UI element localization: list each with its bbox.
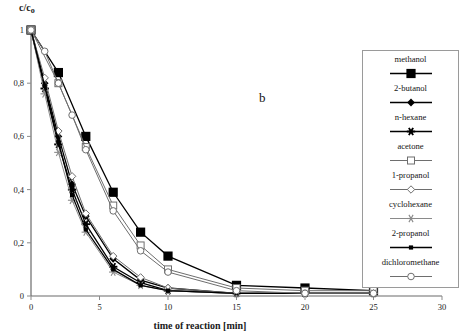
series-2-propanol	[29, 28, 376, 296]
marker-open-circle	[233, 287, 240, 294]
y-tick-label: 0,6	[2, 131, 24, 141]
y-tick-label: 0,4	[2, 185, 24, 195]
marker-filled-square-large	[136, 228, 145, 237]
legend-label: 2-propanol	[363, 228, 458, 239]
legend-marker-sample	[363, 268, 458, 281]
marker-gray-asterisk	[406, 215, 414, 222]
legend-label: methanol	[363, 54, 458, 65]
legend-label: 1-propanol	[363, 170, 458, 181]
legend-entry-n-hexane: n-hexane	[363, 112, 458, 141]
x-tick-label: 0	[20, 302, 42, 312]
legend-entry-dichloromethane: dichloromethane	[363, 257, 458, 286]
x-tick-label: 30	[431, 302, 453, 312]
marker-open-diamond	[407, 186, 414, 193]
data-series-group	[26, 25, 378, 297]
legend-entry-2-propanol: 2-propanol	[363, 228, 458, 257]
legend-entry-1-propanol: 1-propanol	[363, 170, 458, 199]
legend-marker-sample	[363, 210, 458, 223]
marker-open-circle	[137, 247, 144, 254]
marker-open-circle	[41, 48, 48, 55]
y-tick-label: 0,2	[2, 238, 24, 248]
marker-filled-square-large	[163, 252, 172, 261]
legend-marker-sample	[363, 152, 458, 165]
series-acetone	[28, 27, 378, 295]
marker-open-circle	[110, 208, 117, 215]
marker-filled-square-small	[408, 245, 412, 249]
series-dichloromethane	[28, 27, 377, 297]
marker-open-circle	[83, 146, 90, 153]
legend-entry-acetone: acetone	[363, 141, 458, 170]
marker-open-square	[407, 157, 414, 164]
y-tick-label: 0	[2, 291, 24, 301]
series-1-propanol	[27, 26, 377, 297]
marker-filled-square-small	[84, 227, 88, 231]
marker-filled-diamond	[407, 98, 415, 106]
y-tick-label: 0,8	[2, 78, 24, 88]
legend-label: acetone	[363, 141, 458, 152]
y-tick-label: 1	[2, 25, 24, 35]
marker-open-circle	[370, 290, 377, 297]
marker-filled-square-small	[56, 140, 60, 144]
legend-box: methanol2-butanoln-hexaneacetone1-propan…	[362, 50, 459, 288]
marker-filled-square-large	[406, 69, 415, 78]
series-2-butanol	[27, 26, 377, 297]
marker-open-circle	[69, 112, 76, 119]
marker-filled-square-small	[70, 193, 74, 197]
legend-label: 2-butanol	[363, 83, 458, 94]
legend-entry-2-butanol: 2-butanol	[363, 83, 458, 112]
marker-filled-square-large	[109, 188, 118, 197]
series-n-hexane	[27, 26, 378, 297]
legend-marker-sample	[363, 94, 458, 107]
legend-marker-sample	[363, 65, 458, 78]
marker-filled-square-small	[111, 267, 115, 271]
x-tick-label: 15	[226, 302, 248, 312]
x-tick-label: 25	[363, 302, 385, 312]
marker-open-circle	[407, 273, 414, 280]
marker-open-circle	[302, 290, 309, 297]
legend-marker-sample	[363, 239, 458, 252]
legend-entry-cyclohexane: cyclohexane	[363, 199, 458, 228]
marker-filled-square-small	[166, 289, 170, 293]
marker-filled-star	[406, 128, 414, 135]
legend-label: dichloromethane	[363, 257, 458, 268]
legend-label: n-hexane	[363, 112, 458, 123]
marker-filled-square-small	[139, 283, 143, 287]
figure-root: c/co b time of reaction [min] 00,20,40,6…	[0, 0, 469, 336]
marker-open-circle	[55, 80, 62, 87]
marker-open-circle	[165, 269, 172, 276]
legend-entry-methanol: methanol	[363, 54, 458, 83]
series-cyclohexane	[27, 26, 378, 297]
x-tick-label: 20	[294, 302, 316, 312]
legend-marker-sample	[363, 123, 458, 136]
x-tick-label: 5	[89, 302, 111, 312]
legend-label: cyclohexane	[363, 199, 458, 210]
legend-marker-sample	[363, 181, 458, 194]
marker-open-circle	[28, 27, 35, 34]
marker-filled-square-small	[43, 84, 47, 88]
x-tick-label: 10	[157, 302, 179, 312]
series-methanol	[26, 25, 378, 295]
